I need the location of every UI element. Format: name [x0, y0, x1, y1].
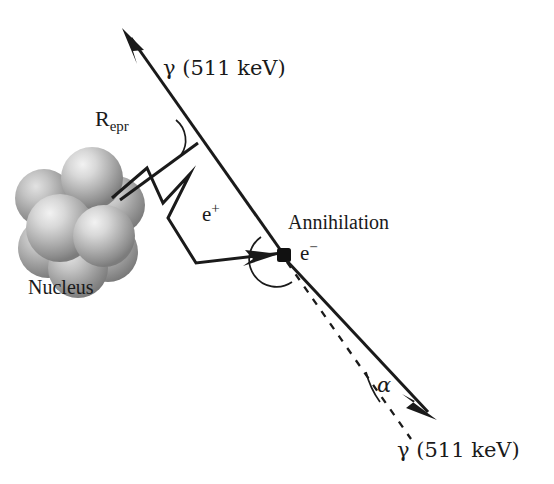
repr-symbol: R: [95, 106, 110, 131]
collinear-reference-dashed-line: [287, 262, 411, 439]
positron-charge: +: [211, 200, 220, 216]
annihilation-dot-icon: [277, 248, 291, 262]
electron-charge: −: [309, 239, 318, 255]
figure-root: γ (511 keV) Repr e+ Annihilation e− Nucl…: [0, 0, 554, 484]
gamma-lower-arrow-head: [402, 394, 437, 420]
repr-subscript: epr: [110, 118, 129, 134]
nucleus-label: Nucleus: [28, 277, 94, 297]
alpha-label: α: [377, 375, 391, 396]
electron-label: e−: [300, 243, 318, 264]
repr-angle-arc-icon: [176, 120, 186, 155]
positron-label: e+: [202, 204, 220, 225]
gamma-upper-arrow-head: [122, 28, 144, 64]
positron-symbol: e: [202, 202, 211, 226]
electron-symbol: e: [300, 241, 309, 265]
gamma-ray-lower: [287, 261, 437, 420]
gamma-bottom-label: γ (511 keV): [397, 440, 520, 461]
gamma-top-label: γ (511 keV): [163, 58, 286, 79]
repr-label: Repr: [95, 108, 129, 130]
annihilation-label: Annihilation: [288, 212, 389, 232]
